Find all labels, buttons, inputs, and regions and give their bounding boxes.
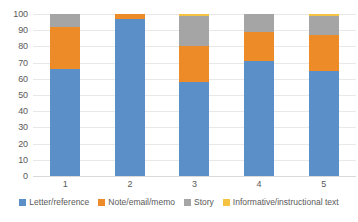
bar-segment[interactable] [309, 16, 339, 35]
bar-slot [33, 14, 98, 176]
x-axis: 12345 [33, 178, 356, 192]
bar-segment[interactable] [50, 69, 80, 176]
bar-slot [162, 14, 227, 176]
legend-label: Story [194, 197, 214, 207]
legend-swatch-icon [98, 199, 105, 206]
plot-area [33, 14, 356, 176]
legend-label: Letter/reference [29, 197, 89, 207]
bar-segment[interactable] [309, 71, 339, 176]
bar-segment[interactable] [179, 16, 209, 46]
bar-slot [291, 14, 356, 176]
legend-swatch-icon [19, 199, 26, 206]
bar-segment[interactable] [244, 61, 274, 176]
stacked-bar[interactable] [179, 14, 209, 176]
bar-segment[interactable] [115, 19, 145, 176]
bar-segment[interactable] [179, 82, 209, 176]
stacked-bar[interactable] [244, 14, 274, 176]
legend-item[interactable]: Informative/instructional text [223, 197, 339, 207]
y-tick-label: 60 [18, 74, 28, 83]
y-axis: 0102030405060708090100 [0, 0, 32, 190]
bar-segment[interactable] [244, 14, 274, 32]
stacked-bar[interactable] [50, 14, 80, 176]
stacked-bar[interactable] [309, 14, 339, 176]
y-tick-label: 100 [13, 10, 28, 19]
bar-segment[interactable] [244, 32, 274, 61]
chart-legend: Letter/referenceNote/email/memoStoryInfo… [0, 197, 358, 207]
y-tick-label: 40 [18, 107, 28, 116]
x-tick-label: 4 [227, 178, 292, 192]
y-tick-label: 90 [18, 26, 28, 35]
plot-wrapper: 0102030405060708090100 12345 [0, 0, 358, 190]
stacked-bar-chart: 0102030405060708090100 12345 Letter/refe… [0, 0, 358, 222]
bar-slot [227, 14, 292, 176]
y-tick-label: 20 [18, 139, 28, 148]
legend-item[interactable]: Letter/reference [19, 197, 89, 207]
y-tick-label: 70 [18, 58, 28, 67]
legend-label: Informative/instructional text [233, 197, 339, 207]
bar-segment[interactable] [309, 35, 339, 71]
bar-segment[interactable] [179, 46, 209, 82]
legend-label: Note/email/memo [108, 197, 175, 207]
bar-segment[interactable] [50, 14, 80, 27]
y-tick-label: 10 [18, 155, 28, 164]
bar-segment[interactable] [50, 27, 80, 69]
legend-item[interactable]: Note/email/memo [98, 197, 175, 207]
y-tick-label: 0 [23, 172, 28, 181]
bars-layer [33, 14, 356, 176]
legend-item[interactable]: Story [184, 197, 214, 207]
stacked-bar[interactable] [115, 14, 145, 176]
legend-swatch-icon [184, 199, 191, 206]
x-tick-label: 3 [162, 178, 227, 192]
gridline [33, 176, 356, 177]
y-tick-label: 50 [18, 91, 28, 100]
x-tick-label: 1 [33, 178, 98, 192]
x-tick-label: 5 [291, 178, 356, 192]
y-tick-label: 30 [18, 123, 28, 132]
legend-swatch-icon [223, 199, 230, 206]
bar-slot [98, 14, 163, 176]
x-tick-label: 2 [98, 178, 163, 192]
y-tick-label: 80 [18, 42, 28, 51]
